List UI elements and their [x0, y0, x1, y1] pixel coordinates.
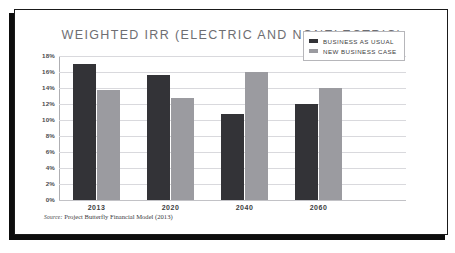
y-axis-tick-label: 18% — [25, 52, 55, 59]
x-axis-label-2020: 2020 — [141, 204, 200, 211]
y-axis-ticks: 18%16%14%12%10%8%6%4%2%0% — [23, 56, 55, 200]
y-axis-tick-label: 14% — [25, 84, 55, 91]
source-prefix: Source: — [44, 214, 63, 220]
legend-label: NEW BUSINESS CASE — [323, 48, 397, 55]
x-axis-label-2040: 2040 — [215, 204, 274, 211]
y-axis-tick-label: 2% — [25, 180, 55, 187]
axis-baseline — [59, 200, 406, 201]
legend-item: NEW BUSINESS CASE — [309, 46, 397, 56]
legend-swatch-icon — [309, 39, 318, 43]
source-text: Project Butterfly Financial Model (2013) — [64, 213, 172, 220]
gridline — [59, 72, 406, 73]
bar-2020-new-business-case — [171, 98, 194, 200]
bar-2060-new-business-case — [319, 88, 342, 200]
source-note: Source: Project Butterfly Financial Mode… — [44, 213, 173, 220]
chart-legend: BUSINESS AS USUALNEW BUSINESS CASE — [303, 31, 405, 61]
bar-2020-business-as-usual — [147, 75, 170, 200]
bar-2040-business-as-usual — [221, 114, 244, 200]
gridline — [59, 88, 406, 89]
x-axis-label-2060: 2060 — [289, 204, 348, 211]
legend-label: BUSINESS AS USUAL — [323, 38, 394, 45]
bar-2040-new-business-case — [245, 72, 268, 200]
y-axis-tick-label: 4% — [25, 164, 55, 171]
legend-item: BUSINESS AS USUAL — [309, 36, 397, 46]
y-axis-tick-label: 6% — [25, 148, 55, 155]
slide-container: WEIGHTED IRR (ELECTRIC AND NONELECTRIC) … — [0, 0, 455, 253]
y-axis-tick-label: 10% — [25, 116, 55, 123]
bar-2013-business-as-usual — [73, 64, 96, 200]
y-axis-tick-label: 16% — [25, 68, 55, 75]
y-axis-tick-label: 0% — [25, 196, 55, 203]
plot-area — [59, 56, 406, 200]
slide-card: WEIGHTED IRR (ELECTRIC AND NONELECTRIC) … — [14, 9, 448, 235]
x-axis-label-2013: 2013 — [67, 204, 126, 211]
bar-2060-business-as-usual — [295, 104, 318, 200]
legend-swatch-icon — [309, 49, 318, 53]
bar-2013-new-business-case — [97, 90, 120, 200]
y-axis-tick-label: 12% — [25, 100, 55, 107]
y-axis-tick-label: 8% — [25, 132, 55, 139]
